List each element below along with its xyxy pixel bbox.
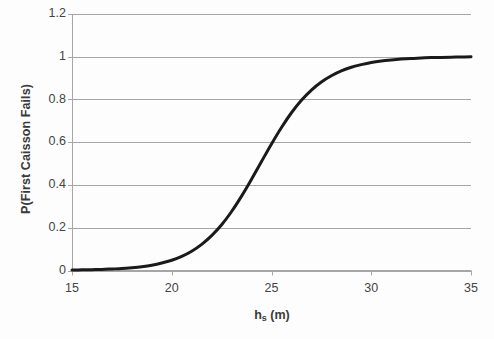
y-tick-marks-group xyxy=(68,15,72,272)
x-axis-title-subscript: s xyxy=(262,313,267,323)
x-tick-label: 25 xyxy=(252,281,292,295)
x-tick-label: 20 xyxy=(152,281,192,295)
x-tick-label: 35 xyxy=(451,281,491,295)
y-axis-title: P(First Caisson Fails) xyxy=(19,49,33,249)
chart-container: 00.20.40.60.811.2 1520253035 P(First Cai… xyxy=(0,0,494,339)
x-axis-title-base: h xyxy=(254,308,262,322)
x-tick-label: 15 xyxy=(52,281,92,295)
x-tick-label: 30 xyxy=(351,281,391,295)
y-tick-label: 1.2 xyxy=(20,6,66,20)
y-tick-label: 0 xyxy=(20,263,66,277)
x-axis-title-unit: (m) xyxy=(267,308,290,322)
data-series-line xyxy=(72,57,471,270)
x-axis-title: hs (m) xyxy=(72,308,472,322)
